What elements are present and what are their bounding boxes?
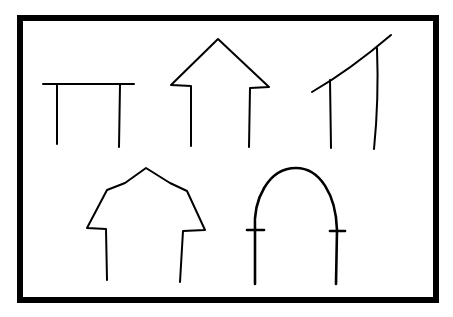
shed-roof-stroke [330, 80, 331, 148]
flat-roof-stroke [119, 85, 120, 147]
roof-shapes-diagram [0, 0, 453, 317]
